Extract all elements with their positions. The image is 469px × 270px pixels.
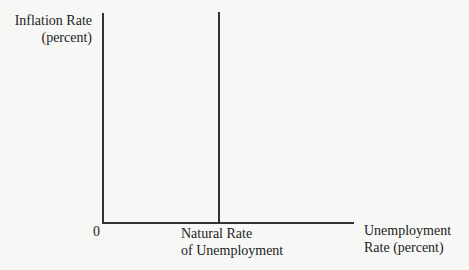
x-axis-label: Unemployment Rate (percent) xyxy=(364,222,451,256)
y-axis-label-line1: Inflation Rate xyxy=(0,12,92,29)
y-axis-line xyxy=(102,13,104,224)
x-axis-line xyxy=(102,222,354,224)
x-axis-label-line2: Rate (percent) xyxy=(364,239,451,256)
natural-rate-label: Natural Rate of Unemployment xyxy=(181,225,283,259)
natural-rate-label-line1: Natural Rate xyxy=(181,225,283,242)
natural-rate-label-line2: of Unemployment xyxy=(181,242,283,259)
y-axis-label-line2: (percent) xyxy=(0,29,92,46)
long-run-phillips-curve-line xyxy=(218,12,220,224)
origin-label: 0 xyxy=(93,223,100,240)
x-axis-label-line1: Unemployment xyxy=(364,222,451,239)
y-axis-label: Inflation Rate (percent) xyxy=(0,12,92,46)
